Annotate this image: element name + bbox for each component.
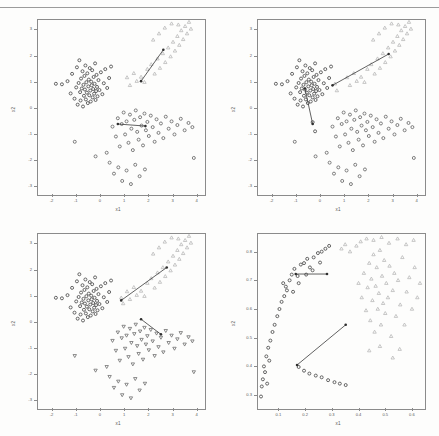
data-point <box>141 358 144 361</box>
x-axis-label: x1 <box>116 421 121 426</box>
centroid-segment <box>297 325 346 365</box>
data-point <box>400 29 403 32</box>
data-point <box>84 98 87 101</box>
x-tick-mark <box>278 408 279 411</box>
data-point <box>80 87 83 90</box>
data-point <box>185 246 188 249</box>
data-point <box>117 166 120 169</box>
data-point <box>399 117 402 120</box>
data-point <box>314 374 317 377</box>
data-point <box>379 122 382 125</box>
data-point <box>76 317 79 320</box>
data-point <box>291 72 294 75</box>
data-point <box>405 290 408 293</box>
data-point <box>369 114 372 117</box>
data-point <box>151 38 154 41</box>
data-point <box>83 74 86 77</box>
data-point <box>129 183 132 186</box>
data-point <box>371 126 374 129</box>
segment-endpoint <box>160 333 163 336</box>
data-point <box>88 308 91 311</box>
data-point <box>271 330 274 333</box>
data-point <box>384 312 387 315</box>
data-point <box>359 240 362 243</box>
data-point <box>105 151 108 154</box>
data-point <box>94 369 97 372</box>
data-point <box>408 276 411 279</box>
data-point <box>87 85 90 88</box>
data-point <box>161 266 164 269</box>
data-point <box>338 145 341 148</box>
data-point <box>180 243 183 246</box>
data-point <box>316 85 319 88</box>
data-point <box>340 123 343 126</box>
data-point <box>386 46 389 49</box>
data-point <box>89 314 92 317</box>
data-point <box>144 129 147 132</box>
y-tick-mark <box>34 296 37 297</box>
data-point <box>164 61 167 64</box>
y-tick-mark <box>254 280 257 281</box>
x-tick-label: -2 <box>46 198 58 203</box>
data-point <box>377 32 380 35</box>
data-point <box>368 261 371 264</box>
data-point <box>118 359 121 362</box>
data-point <box>375 266 378 269</box>
y-tick-label: 0.8 <box>237 249 252 254</box>
y-tick-mark <box>34 82 37 83</box>
data-point <box>350 127 353 130</box>
series-cluster-3-light-triangles <box>333 20 412 91</box>
y-tick-label: 0.5 <box>237 335 252 340</box>
x-tick-label: 0.6 <box>406 412 418 417</box>
y-tick-label: 2 <box>17 267 32 272</box>
data-point <box>92 75 95 78</box>
x-tick-mark <box>385 408 386 411</box>
data-point <box>81 70 84 73</box>
data-point <box>359 116 362 119</box>
data-point <box>89 100 92 103</box>
data-point <box>54 296 57 299</box>
data-point <box>87 299 90 302</box>
segment-endpoint <box>326 273 329 276</box>
data-point <box>296 103 299 106</box>
data-point <box>91 310 94 313</box>
data-point <box>80 301 83 304</box>
x-tick-label: 0.4 <box>353 412 365 417</box>
x-axis-label: x1 <box>336 421 341 426</box>
data-point <box>293 140 296 143</box>
y-tick-label: 0 <box>17 319 32 324</box>
data-point <box>377 291 380 294</box>
y-tick-label: 3 <box>237 26 252 31</box>
data-point <box>134 378 137 381</box>
data-point <box>363 112 366 115</box>
data-point <box>311 96 314 99</box>
data-point <box>84 312 87 315</box>
data-point <box>261 378 264 381</box>
x-tick-label: 2 <box>142 198 154 203</box>
data-point <box>153 72 156 75</box>
data-point <box>355 79 358 82</box>
data-point <box>147 135 150 138</box>
data-point <box>97 293 100 296</box>
data-point <box>396 124 399 127</box>
data-point <box>293 97 296 100</box>
x-tick-label: -1 <box>70 412 82 417</box>
data-point <box>167 127 170 130</box>
data-point <box>370 277 373 280</box>
data-point <box>110 279 113 282</box>
data-point <box>179 332 182 335</box>
data-point <box>132 72 135 75</box>
data-point <box>181 252 184 255</box>
data-point <box>354 109 357 112</box>
data-point <box>137 352 140 355</box>
segment-endpoint <box>120 299 123 302</box>
data-point <box>81 105 84 108</box>
data-point <box>187 121 190 124</box>
data-point <box>300 77 303 80</box>
segment-endpoint <box>331 84 334 87</box>
series-cluster-1-dark-circles <box>54 59 112 108</box>
data-point <box>374 284 377 287</box>
data-point <box>366 286 369 289</box>
data-point <box>314 62 317 65</box>
data-point <box>118 145 121 148</box>
